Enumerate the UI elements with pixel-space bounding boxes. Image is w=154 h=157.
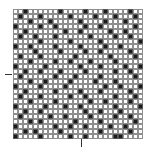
y-axis-tick xyxy=(5,74,12,75)
binary-matrix-grid xyxy=(13,9,143,139)
x-axis-tick xyxy=(81,139,82,147)
matrix-cell xyxy=(138,134,143,139)
